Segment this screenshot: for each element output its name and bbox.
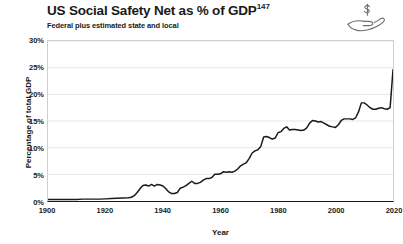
gridlines	[48, 41, 393, 174]
chart-figure: US Social Safety Net as % of GDP147 Fede…	[0, 0, 403, 244]
y-axis-tick-label: 30%	[0, 36, 44, 45]
y-axis-tick-label: 15%	[0, 117, 44, 126]
y-axis-tick-label: 25%	[0, 63, 44, 72]
y-axis-tick-label: 5%	[0, 171, 44, 180]
plot-svg	[48, 41, 393, 201]
x-axis-tick-label: 2020	[386, 206, 403, 215]
chart-subtitle: Federal plus estimated state and local	[47, 21, 179, 30]
x-axis-title: Year	[47, 228, 394, 237]
x-axis-tick-label: 1900	[39, 206, 56, 215]
x-axis-tick-label: 1960	[212, 206, 229, 215]
x-axis-tick-label: 1940	[154, 206, 171, 215]
x-axis-tick-label: 1980	[270, 206, 287, 215]
chart-title: US Social Safety Net as % of GDP147	[47, 2, 270, 18]
x-axis-tick-label: 2000	[328, 206, 345, 215]
plot-area	[47, 40, 394, 202]
chart-title-footnote-marker: 147	[257, 2, 270, 11]
hand-with-dollar-icon	[339, 1, 395, 35]
y-axis-tick-label: 0%	[0, 198, 44, 207]
y-axis-tick-label: 20%	[0, 90, 44, 99]
chart-title-text: US Social Safety Net as % of GDP	[47, 3, 257, 18]
x-axis-tick-label: 1920	[96, 206, 113, 215]
y-axis-tick-label: 10%	[0, 144, 44, 153]
data-line-social-safety-net	[48, 70, 393, 200]
